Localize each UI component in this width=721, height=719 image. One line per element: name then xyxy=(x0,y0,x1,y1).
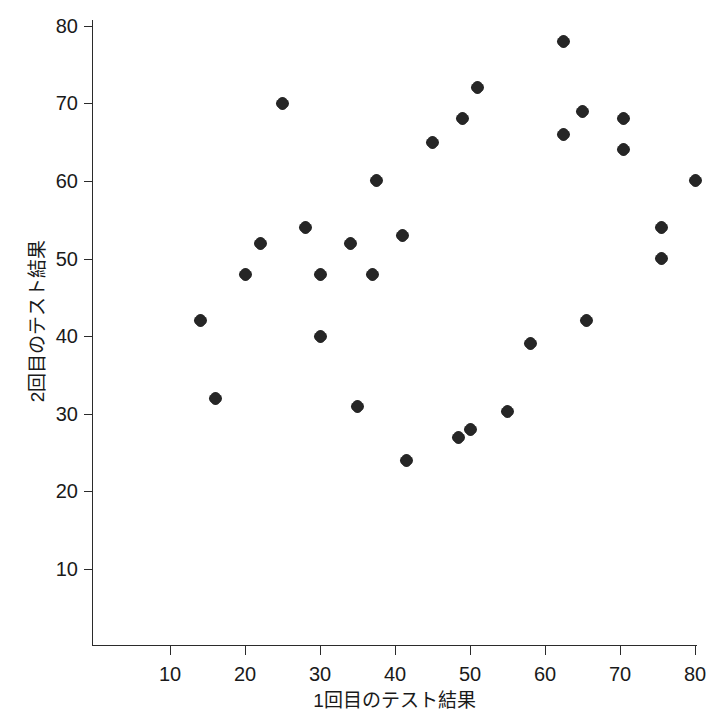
y-tick-label: 70 xyxy=(32,93,78,113)
y-tick-mark xyxy=(84,259,93,260)
x-tick-mark xyxy=(695,646,696,655)
y-tick-mark xyxy=(84,414,93,415)
x-tick-mark xyxy=(320,646,321,655)
data-point xyxy=(525,338,536,349)
x-tick-label: 30 xyxy=(290,663,350,685)
x-tick-label: 70 xyxy=(590,663,650,685)
data-point xyxy=(367,269,378,280)
y-tick-label: 10 xyxy=(32,559,78,579)
data-point xyxy=(210,393,221,404)
x-tick-label: 60 xyxy=(515,663,575,685)
y-tick-mark xyxy=(84,181,93,182)
y-tick-label-wrap: 60 xyxy=(22,171,78,191)
data-point xyxy=(427,137,438,148)
data-point xyxy=(465,424,476,435)
data-point xyxy=(472,82,483,93)
y-tick-mark xyxy=(84,569,93,570)
y-tick-label-wrap: 10 xyxy=(22,559,78,579)
data-point xyxy=(240,269,251,280)
data-point xyxy=(401,455,412,466)
y-tick-label: 20 xyxy=(32,481,78,501)
x-tick-mark xyxy=(395,646,396,655)
y-tick-label: 60 xyxy=(32,171,78,191)
data-point xyxy=(195,315,206,326)
data-point xyxy=(453,432,464,443)
x-tick-label: 10 xyxy=(140,663,200,685)
x-tick-label: 20 xyxy=(215,663,275,685)
data-point xyxy=(277,98,288,109)
data-point xyxy=(690,175,701,186)
x-tick-mark xyxy=(245,646,246,655)
data-point xyxy=(345,238,356,249)
y-axis-title: 2回目のテスト結果 xyxy=(27,191,49,451)
data-point xyxy=(577,106,588,117)
x-tick-label: 40 xyxy=(365,663,425,685)
y-tick-mark xyxy=(84,103,93,104)
data-point xyxy=(656,253,667,264)
data-point xyxy=(656,222,667,233)
x-tick-label: 80 xyxy=(665,663,721,685)
data-point xyxy=(581,315,592,326)
y-tick-label: 80 xyxy=(32,16,78,36)
data-point xyxy=(618,113,629,124)
y-tick-label-wrap: 20 xyxy=(22,481,78,501)
data-point xyxy=(315,269,326,280)
y-tick-mark xyxy=(84,491,93,492)
x-tick-mark xyxy=(470,646,471,655)
x-tick-mark xyxy=(545,646,546,655)
y-tick-mark xyxy=(84,26,93,27)
data-point xyxy=(300,222,311,233)
scatter-chart: 1020304050607080 1020304050607080 1回目のテス… xyxy=(0,0,721,719)
x-tick-mark xyxy=(620,646,621,655)
x-tick-mark xyxy=(170,646,171,655)
data-point xyxy=(457,113,468,124)
data-point xyxy=(397,230,408,241)
x-tick-label: 50 xyxy=(440,663,500,685)
data-point xyxy=(371,175,382,186)
y-tick-label-wrap: 80 xyxy=(22,16,78,36)
data-point xyxy=(315,331,326,342)
data-point xyxy=(618,144,629,155)
data-point xyxy=(352,401,363,412)
y-axis-line xyxy=(92,20,93,646)
x-axis-title: 1回目のテスト結果 xyxy=(92,690,697,712)
data-point xyxy=(255,238,266,249)
data-point xyxy=(502,406,513,417)
data-point xyxy=(558,36,569,47)
y-tick-label-wrap: 70 xyxy=(22,93,78,113)
y-tick-mark xyxy=(84,336,93,337)
data-point xyxy=(558,129,569,140)
